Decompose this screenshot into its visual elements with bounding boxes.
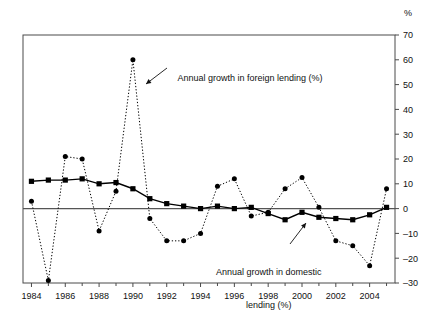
data-point-marker <box>147 216 152 221</box>
data-point-marker <box>266 211 271 216</box>
y-tick-label: 0 <box>403 204 408 214</box>
y-tick-label: 30 <box>403 130 413 140</box>
x-tick-label: 1984 <box>21 291 41 301</box>
y-tick-label: 50 <box>403 80 413 90</box>
data-point-marker <box>232 176 237 181</box>
data-point-marker <box>333 238 338 243</box>
annotation-arrowhead <box>146 79 151 84</box>
y-axis-unit-label: % <box>404 8 412 18</box>
annotation-foreign-lending: Annual growth in foreign lending (%) <box>168 62 323 95</box>
annotation-domestic-lending-line2: lending (%) <box>216 300 322 311</box>
data-point-marker <box>130 186 135 191</box>
data-point-marker <box>80 176 85 181</box>
data-point-marker <box>283 186 288 191</box>
annotation-foreign-lending-text: Annual growth in foreign lending (%) <box>178 73 323 83</box>
data-point-marker <box>316 205 321 210</box>
data-point-marker <box>113 180 118 185</box>
y-tick-label: –20 <box>403 254 418 264</box>
data-point-marker <box>63 154 68 159</box>
x-tick-label: 2004 <box>360 291 380 301</box>
data-point-marker <box>232 206 237 211</box>
data-point-marker <box>249 205 254 210</box>
x-tick-label: 1992 <box>157 291 177 301</box>
data-point-marker <box>300 175 305 180</box>
data-point-marker <box>46 278 51 283</box>
data-point-marker <box>384 186 389 191</box>
data-point-marker <box>130 57 135 62</box>
y-tick-label: –30 <box>403 278 418 288</box>
data-point-marker <box>80 157 85 162</box>
data-point-marker <box>316 215 321 220</box>
annotation-domestic-lending-line1: Annual growth in domestic <box>216 267 322 278</box>
data-point-marker <box>147 196 152 201</box>
data-point-marker <box>198 206 203 211</box>
y-tick-label: 40 <box>403 105 413 115</box>
data-point-marker <box>384 205 389 210</box>
y-tick-label: 60 <box>403 55 413 65</box>
data-point-marker <box>96 181 101 186</box>
data-point-marker <box>181 204 186 209</box>
data-point-marker <box>198 231 203 236</box>
x-tick-label: 1986 <box>55 291 75 301</box>
series-domestic-lending <box>29 176 389 222</box>
data-point-marker <box>63 177 68 182</box>
data-point-marker <box>367 212 372 217</box>
data-point-marker <box>29 199 34 204</box>
data-point-marker <box>46 177 51 182</box>
data-point-marker <box>282 217 287 222</box>
data-point-marker <box>350 217 355 222</box>
x-tick-label: 1994 <box>191 291 211 301</box>
x-tick-label: 1988 <box>89 291 109 301</box>
data-point-marker <box>249 214 254 219</box>
annotation-domestic-lending: Annual growth in domestic lending (%) <box>216 245 322 321</box>
data-point-marker <box>164 238 169 243</box>
x-tick-label: 2002 <box>326 291 346 301</box>
annotation-arrowhead <box>301 223 306 228</box>
y-tick-label: –10 <box>403 229 418 239</box>
x-tick-label: 1990 <box>123 291 143 301</box>
data-point-marker <box>333 216 338 221</box>
data-point-marker <box>164 201 169 206</box>
y-tick-label: 70 <box>403 30 413 40</box>
data-point-marker <box>114 189 119 194</box>
data-point-marker <box>215 204 220 209</box>
data-point-marker <box>350 243 355 248</box>
data-point-marker <box>181 238 186 243</box>
data-point-marker <box>215 184 220 189</box>
y-tick-label: 20 <box>403 154 413 164</box>
data-point-marker <box>29 179 34 184</box>
data-point-marker <box>299 210 304 215</box>
series-line <box>31 179 386 220</box>
data-point-marker <box>367 263 372 268</box>
y-tick-label: 10 <box>403 179 413 189</box>
chart-container: –30–20–100102030405060701984198619881990… <box>0 0 440 321</box>
data-point-marker <box>97 228 102 233</box>
